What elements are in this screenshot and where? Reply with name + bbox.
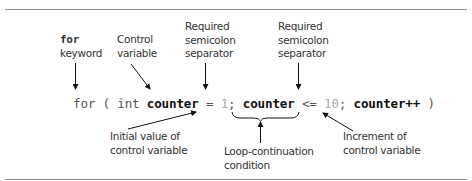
brace-loop-condition — [232, 112, 299, 121]
arrow-increment — [323, 113, 353, 131]
arrow-initial-value — [128, 112, 196, 129]
arrow-control-variable — [131, 64, 150, 89]
arrows-overlay — [0, 0, 472, 181]
